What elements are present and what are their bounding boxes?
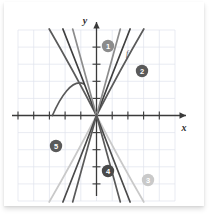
y-axis-arrow — [93, 22, 99, 29]
figure-page: y x f 1 2 3 4 5 — [0, 0, 212, 218]
badge-3-label: 3 — [146, 176, 150, 185]
curve-2 — [52, 83, 84, 116]
badge-4: 4 — [102, 165, 114, 177]
badge-2-label: 2 — [140, 67, 144, 76]
plot-area: y x f 1 2 3 4 5 — [0, 0, 212, 218]
badge-3: 3 — [142, 174, 154, 186]
badge-2: 2 — [136, 65, 148, 77]
y-axis-label: y — [82, 15, 88, 26]
graph-svg: y x f 1 2 3 4 5 — [0, 0, 212, 218]
badge-5: 5 — [50, 140, 62, 152]
badge-1: 1 — [102, 40, 114, 52]
x-axis-label: x — [181, 122, 187, 133]
badge-1-label: 1 — [106, 42, 110, 51]
x-axis-arrow — [180, 112, 187, 118]
badge-5-label: 5 — [54, 142, 58, 151]
